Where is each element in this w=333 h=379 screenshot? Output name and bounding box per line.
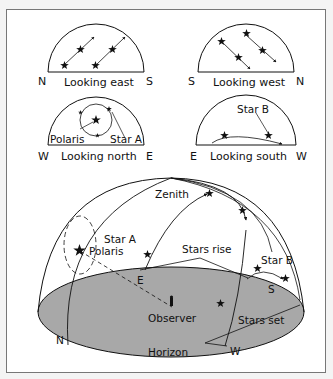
- observer-icon: [170, 298, 173, 306]
- stars-set-label: Stars set: [238, 314, 284, 326]
- star-a-main-label: Star A: [104, 233, 137, 245]
- panel-north-left: W: [38, 150, 49, 163]
- panel-east-left: N: [38, 75, 46, 88]
- dir-s-label: S: [268, 283, 275, 295]
- star-icon: [234, 53, 243, 61]
- stars-rise-label: Stars rise: [182, 243, 232, 255]
- star-a-label: Star A: [110, 133, 143, 145]
- star-b-main-label: Star B: [261, 254, 293, 266]
- panel-east-right: S: [146, 75, 153, 88]
- dir-n-label: N: [56, 334, 64, 346]
- polaris-star-icon: [73, 244, 85, 256]
- panel-looking-south: Star B E Looking south W: [190, 95, 307, 163]
- panel-looking-west: S Looking west N: [188, 24, 304, 89]
- star-b-label: Star B: [237, 103, 269, 115]
- panel-south-title: Looking south: [210, 150, 287, 163]
- horizon-label: Horizon: [148, 346, 188, 358]
- panel-south-left: E: [190, 150, 197, 163]
- dir-w-label: W: [230, 345, 241, 357]
- zenith-label: Zenith: [155, 188, 189, 200]
- polaris-main-label: Polaris: [89, 245, 123, 257]
- panel-looking-east: N Looking east S: [38, 24, 153, 89]
- panel-south-right: W: [296, 150, 307, 163]
- star-icon: [281, 274, 290, 282]
- star-icon: [78, 110, 83, 115]
- star-icon: [95, 133, 100, 138]
- panel-west-right: N: [296, 75, 304, 88]
- star-icon: [264, 131, 273, 139]
- celestial-motion-diagram: N Looking east S S Looking west N Polari…: [0, 0, 333, 379]
- panel-west-left: S: [188, 75, 195, 88]
- panel-north-right: E: [146, 150, 153, 163]
- panel-west-title: Looking west: [213, 76, 286, 89]
- polaris-star-icon: [91, 115, 101, 124]
- polaris-label: Polaris: [50, 133, 84, 145]
- panel-east-title: Looking east: [64, 76, 135, 89]
- panel-looking-north: Polaris Star A W Looking north E: [38, 97, 153, 163]
- celestial-dome: Zenith Star A Polaris Stars rise Star B …: [38, 178, 304, 358]
- dir-e-label: E: [137, 274, 144, 286]
- observer-label: Observer: [148, 312, 197, 324]
- panel-north-title: Looking north: [61, 150, 137, 163]
